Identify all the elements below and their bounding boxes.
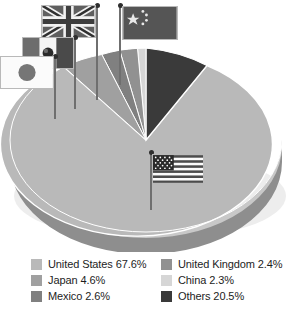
- flag-pole-japan: [54, 56, 56, 119]
- legend-swatch-mexico: [31, 291, 42, 302]
- legend-item-japan[interactable]: Japan 4.6%: [31, 272, 146, 288]
- legend-label-united-states: United States 67.6%: [48, 259, 146, 270]
- legend-label-united-kingdom: United Kingdom 2.4%: [178, 259, 283, 270]
- legend-column-left: United States 67.6% Japan 4.6% Mexico 2.…: [31, 256, 146, 304]
- chart-legend: United States 67.6% Japan 4.6% Mexico 2.…: [0, 256, 289, 317]
- legend-swatch-japan: [31, 275, 42, 286]
- legend-swatch-china: [161, 275, 172, 286]
- legend-item-china[interactable]: China 2.3%: [161, 272, 283, 288]
- legend-swatch-others: [161, 291, 172, 302]
- chart-area: [0, 0, 289, 252]
- legend-swatch-united-states: [31, 259, 42, 270]
- legend-label-others: Others 20.5%: [178, 291, 244, 302]
- legend-item-mexico[interactable]: Mexico 2.6%: [31, 288, 146, 304]
- flag-united-states-icon: [152, 154, 204, 184]
- legend-label-china: China 2.3%: [178, 275, 234, 286]
- legend-swatch-united-kingdom: [161, 259, 172, 270]
- flag-pole-china: [119, 5, 121, 85]
- legend-label-japan: Japan 4.6%: [48, 275, 105, 286]
- legend-column-right: United Kingdom 2.4% China 2.3% Others 20…: [161, 256, 283, 304]
- flag-united-kingdom-icon: [41, 5, 96, 38]
- legend-item-united-states[interactable]: United States 67.6%: [31, 256, 146, 272]
- flag-pole-mexico: [74, 37, 76, 109]
- flag-pole-united-kingdom: [96, 5, 98, 100]
- legend-label-mexico: Mexico 2.6%: [48, 291, 110, 302]
- pie-chart-figure: United States 67.6% Japan 4.6% Mexico 2.…: [0, 0, 289, 317]
- flag-china-icon: [122, 6, 178, 40]
- flag-japan-icon: [0, 56, 54, 89]
- legend-item-united-kingdom[interactable]: United Kingdom 2.4%: [161, 256, 283, 272]
- legend-item-others[interactable]: Others 20.5%: [161, 288, 283, 304]
